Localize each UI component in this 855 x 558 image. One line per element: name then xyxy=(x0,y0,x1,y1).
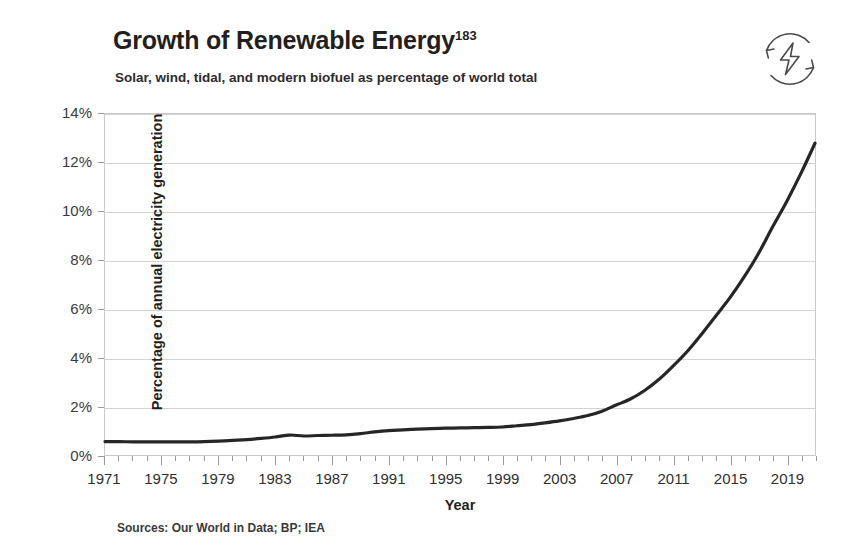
y-axis-title: Percentage of annual electricity generat… xyxy=(149,92,165,432)
x-axis-minor-tick xyxy=(189,456,190,461)
x-axis-minor-tick xyxy=(773,456,774,461)
x-axis-minor-tick xyxy=(232,456,233,461)
y-axis-tick-label: 10% xyxy=(0,202,92,219)
x-axis-tick-label: 2019 xyxy=(771,470,804,487)
x-axis-minor-tick xyxy=(631,456,632,461)
x-axis-minor-tick xyxy=(702,456,703,461)
x-axis-minor-tick xyxy=(488,456,489,461)
chart-title-footnote: 183 xyxy=(455,28,477,43)
x-axis-major-tick xyxy=(674,456,675,465)
x-axis-minor-tick xyxy=(118,456,119,461)
x-axis-major-tick xyxy=(788,456,789,465)
x-axis-minor-tick xyxy=(147,456,148,461)
x-axis-minor-tick xyxy=(602,456,603,461)
renewable-energy-icon xyxy=(757,26,823,92)
x-axis-tick-label: 2015 xyxy=(714,470,747,487)
x-axis-minor-tick xyxy=(759,456,760,461)
x-axis-tick-label: 1975 xyxy=(144,470,177,487)
x-axis-minor-tick xyxy=(745,456,746,461)
y-axis-tick-label: 14% xyxy=(0,104,92,121)
x-axis-tick-label: 1987 xyxy=(315,470,348,487)
x-axis-major-tick xyxy=(731,456,732,465)
x-axis-major-tick xyxy=(446,456,447,465)
series-path-renewables xyxy=(105,143,815,442)
x-axis-minor-tick xyxy=(403,456,404,461)
y-axis-tick-label: 8% xyxy=(0,251,92,268)
x-axis-minor-tick xyxy=(574,456,575,461)
x-axis-minor-tick xyxy=(460,456,461,461)
x-axis-minor-tick xyxy=(375,456,376,461)
y-axis-tick-label: 2% xyxy=(0,398,92,415)
x-axis-minor-tick xyxy=(531,456,532,461)
x-axis-major-tick xyxy=(218,456,219,465)
y-axis-tick-mark xyxy=(98,113,104,114)
x-axis-minor-tick xyxy=(261,456,262,461)
plot-area: Percentage of annual electricity generat… xyxy=(104,113,816,456)
x-axis-minor-tick xyxy=(318,456,319,461)
y-axis-tick-label: 4% xyxy=(0,349,92,366)
y-axis-tick-mark xyxy=(98,162,104,163)
x-axis-minor-tick xyxy=(303,456,304,461)
x-axis-major-tick xyxy=(161,456,162,465)
x-axis-tick-label: 1999 xyxy=(486,470,519,487)
x-axis-minor-tick xyxy=(289,456,290,461)
chart-title-text: Growth of Renewable Energy xyxy=(113,26,455,54)
x-axis-tick-label: 2011 xyxy=(657,470,689,487)
x-axis-major-tick xyxy=(560,456,561,465)
x-axis-tick-label: 1983 xyxy=(258,470,291,487)
x-axis-minor-tick xyxy=(417,456,418,461)
x-axis-minor-tick xyxy=(588,456,589,461)
x-axis-tick-marks xyxy=(104,456,816,466)
series-line-chart xyxy=(105,114,815,455)
x-axis-minor-tick xyxy=(816,456,817,461)
x-axis-tick-label: 1995 xyxy=(429,470,462,487)
x-axis-minor-tick xyxy=(246,456,247,461)
x-axis-minor-tick xyxy=(659,456,660,461)
x-axis-minor-tick xyxy=(802,456,803,461)
x-axis-minor-tick xyxy=(688,456,689,461)
x-axis-minor-tick xyxy=(545,456,546,461)
x-axis-minor-tick xyxy=(432,456,433,461)
x-axis-minor-tick xyxy=(474,456,475,461)
x-axis-tick-label: 2003 xyxy=(543,470,576,487)
x-axis-major-tick xyxy=(104,456,105,465)
x-axis-minor-tick xyxy=(132,456,133,461)
x-axis-minor-tick xyxy=(346,456,347,461)
y-axis-tick-mark xyxy=(98,358,104,359)
x-axis-major-tick xyxy=(275,456,276,465)
x-axis-minor-tick xyxy=(175,456,176,461)
x-axis-major-tick xyxy=(503,456,504,465)
sources-note: Sources: Our World in Data; BP; IEA xyxy=(117,521,325,535)
y-axis-tick-label: 12% xyxy=(0,153,92,170)
x-axis-minor-tick xyxy=(645,456,646,461)
x-axis-tick-label: 1971 xyxy=(87,470,120,487)
x-axis-tick-label: 1991 xyxy=(372,470,405,487)
chart-subtitle: Solar, wind, tidal, and modern biofuel a… xyxy=(115,70,537,85)
page-title: Growth of Renewable Energy183 xyxy=(113,26,477,55)
x-axis-tick-label: 2007 xyxy=(600,470,633,487)
x-axis-minor-tick xyxy=(204,456,205,461)
y-axis-tick-mark xyxy=(98,260,104,261)
y-axis-tick-mark xyxy=(98,211,104,212)
y-axis-tick-label: 0% xyxy=(0,447,92,464)
y-axis-tick-mark xyxy=(98,309,104,310)
x-axis-title: Year xyxy=(104,497,816,513)
x-axis-minor-tick xyxy=(360,456,361,461)
x-axis-minor-tick xyxy=(517,456,518,461)
x-axis-minor-tick xyxy=(716,456,717,461)
x-axis-major-tick xyxy=(332,456,333,465)
y-axis-tick-mark xyxy=(98,407,104,408)
x-axis-major-tick xyxy=(389,456,390,465)
y-axis-tick-label: 6% xyxy=(0,300,92,317)
x-axis-tick-label: 1979 xyxy=(201,470,234,487)
x-axis-major-tick xyxy=(617,456,618,465)
